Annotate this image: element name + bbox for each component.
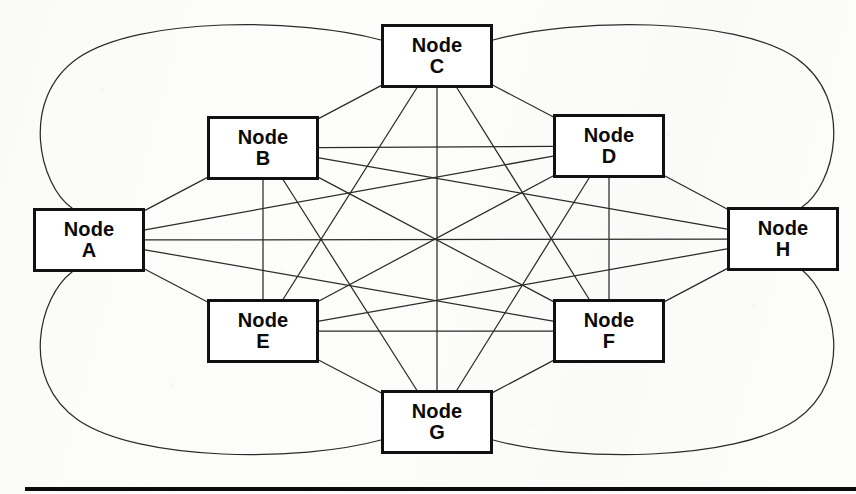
node-label-word-f: Node: [584, 310, 634, 331]
edge-a-e: [145, 269, 207, 301]
node-label-letter-f: F: [603, 331, 615, 352]
edge-f-h: [665, 269, 727, 302]
node-box-b[interactable]: NodeB: [207, 116, 319, 180]
edge-a-b: [145, 178, 207, 211]
edge-f-g: [493, 361, 553, 393]
node-label-word-b: Node: [238, 127, 288, 148]
node-label-word-d: Node: [584, 125, 634, 146]
node-box-c[interactable]: NodeC: [381, 24, 493, 88]
node-box-d[interactable]: NodeD: [553, 114, 665, 178]
edge-e-g: [319, 360, 381, 392]
node-label-letter-g: G: [429, 422, 445, 443]
edge-c-d: [493, 85, 553, 116]
node-box-f[interactable]: NodeF: [553, 299, 665, 363]
node-box-a[interactable]: NodeA: [33, 208, 145, 272]
edge-e-h: [319, 249, 727, 321]
diagram-page: NodeANodeBNodeCNodeDNodeENodeFNodeGNodeH: [0, 0, 856, 494]
bottom-horizontal-rule: [25, 487, 856, 491]
node-label-letter-e: E: [256, 331, 269, 352]
node-box-h[interactable]: NodeH: [727, 207, 839, 271]
edge-d-h: [665, 176, 727, 209]
node-label-word-c: Node: [412, 35, 462, 56]
node-box-e[interactable]: NodeE: [207, 299, 319, 363]
node-label-letter-h: H: [776, 239, 791, 260]
node-label-letter-a: A: [82, 240, 97, 261]
node-label-letter-d: D: [602, 146, 617, 167]
node-label-letter-c: C: [430, 56, 445, 77]
edge-b-d: [319, 146, 553, 147]
edge-b-c: [319, 86, 381, 119]
node-label-letter-b: B: [256, 148, 271, 169]
node-label-word-e: Node: [238, 310, 288, 331]
node-box-g[interactable]: NodeG: [381, 390, 493, 454]
node-label-word-g: Node: [412, 401, 462, 422]
node-label-word-a: Node: [64, 219, 114, 240]
node-label-word-h: Node: [758, 218, 808, 239]
